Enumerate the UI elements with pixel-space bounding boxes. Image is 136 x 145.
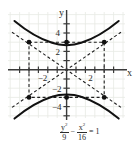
box-corner-bottom-right	[102, 95, 107, 100]
y-tick-label-neg2: −2	[52, 84, 62, 94]
x-axis-label: x	[127, 67, 132, 78]
y-term-denominator: 9	[61, 134, 67, 142]
box-corner-top-right	[102, 40, 107, 45]
y-tick-label-4: 4	[56, 28, 61, 38]
y-exponent: 2	[65, 122, 68, 127]
y-tick-label-neg4: −4	[52, 102, 62, 112]
x-term-numerator: x2	[78, 122, 87, 132]
x-term-fraction: x2 16	[77, 122, 87, 143]
box-corner-top-left	[27, 40, 32, 45]
box-corner-bottom-left	[27, 95, 32, 100]
y-axis-label: y	[59, 7, 64, 18]
y-tick-label-2: 2	[56, 47, 61, 57]
equals-sign: =	[88, 128, 95, 136]
x-tick-label-neg2: −2	[38, 73, 48, 83]
vertex-point-upper	[64, 40, 69, 45]
minus-operator: −	[70, 128, 77, 136]
y-term-numerator: y2	[60, 122, 69, 132]
x-term-denominator: 16	[77, 134, 87, 142]
equation-right-side: 1	[96, 128, 100, 136]
x-exponent: 2	[83, 122, 86, 127]
y-term-fraction: y2 9	[60, 122, 69, 143]
vertex-point-lower	[64, 95, 69, 100]
x-tick-label-pos2: 2	[88, 73, 93, 83]
hyperbola-figure: −2 2 4 2 −2 −4 y x y2 9 − x2 16 = 1	[0, 0, 136, 145]
equation-caption: y2 9 − x2 16 = 1	[60, 120, 136, 144]
